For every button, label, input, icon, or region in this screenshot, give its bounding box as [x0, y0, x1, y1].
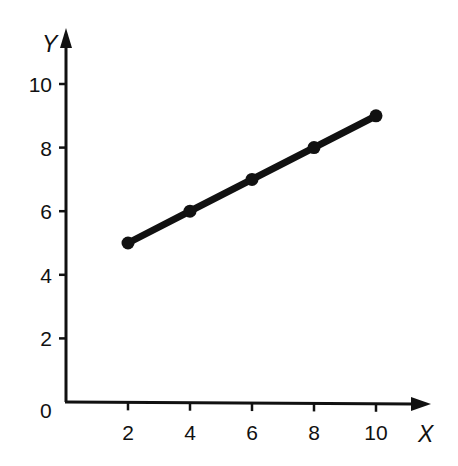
- data-point-marker: [122, 237, 135, 250]
- y-tick-label: 4: [40, 264, 52, 287]
- y-tick-label: 10: [29, 73, 52, 96]
- axes: [60, 28, 431, 411]
- y-tick-label: 6: [40, 200, 52, 223]
- y-axis-arrow-icon: [60, 28, 72, 48]
- x-tick-label: 4: [184, 421, 196, 444]
- x-tick-label: 10: [364, 421, 387, 444]
- data-point-marker: [184, 205, 197, 218]
- y-tick-label: 8: [40, 137, 52, 160]
- chart-canvas: 246810246810 X Y 0: [0, 0, 458, 466]
- y-axis-label: Y: [42, 31, 59, 57]
- origin-label: 0: [40, 399, 52, 422]
- x-tick-label: 2: [122, 421, 134, 444]
- data-series: [122, 109, 383, 249]
- ticks: 246810246810: [29, 73, 388, 444]
- x-tick-label: 6: [246, 421, 258, 444]
- line-chart: 246810246810 X Y 0: [0, 0, 458, 466]
- x-axis-label: X: [417, 421, 435, 447]
- data-point-marker: [370, 109, 383, 122]
- data-point-marker: [308, 141, 321, 154]
- x-tick-label: 8: [308, 421, 320, 444]
- data-point-marker: [246, 173, 259, 186]
- x-axis-arrow-icon: [411, 397, 431, 411]
- y-tick-label: 2: [40, 327, 52, 350]
- x-axis-line: [65, 402, 414, 404]
